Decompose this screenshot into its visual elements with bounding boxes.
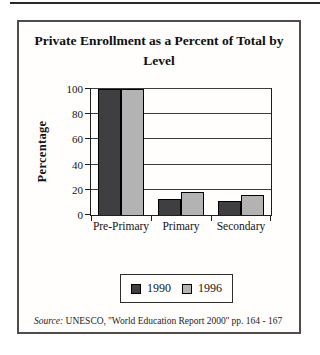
legend-swatch-1996 bbox=[182, 284, 192, 294]
legend-item-1996: 1996 bbox=[182, 281, 222, 296]
x-tick-mark bbox=[151, 215, 152, 221]
bar-1996 bbox=[181, 192, 204, 215]
x-tick-mark bbox=[211, 215, 212, 221]
x-axis-label: Secondary bbox=[217, 220, 266, 232]
bar-1990 bbox=[98, 89, 121, 215]
source-text: UNESCO, ''World Education Report 2000'' … bbox=[63, 316, 282, 326]
y-tick-label: 80 bbox=[49, 109, 83, 120]
source-label: Source: bbox=[34, 316, 63, 326]
y-axis-title-text: Percentage bbox=[36, 120, 51, 182]
y-tick-label: 0 bbox=[49, 210, 83, 221]
bar-1996 bbox=[241, 195, 264, 215]
y-axis-title: Percentage bbox=[32, 86, 54, 216]
legend-label-1996: 1996 bbox=[198, 281, 222, 296]
x-tick-mark bbox=[270, 215, 271, 221]
y-tick-label: 20 bbox=[49, 184, 83, 195]
legend-label-1990: 1990 bbox=[147, 281, 171, 296]
bar-1990 bbox=[158, 199, 181, 215]
y-tick-label: 100 bbox=[49, 84, 83, 95]
legend: 1990 1996 bbox=[120, 274, 233, 303]
plot-area: 020406080100Pre-PrimaryPrimarySecondary bbox=[90, 88, 272, 216]
x-tick-mark bbox=[91, 215, 92, 221]
legend-swatch-1990 bbox=[131, 284, 141, 294]
bar-1996 bbox=[121, 89, 144, 215]
source-note: Source: UNESCO, ''World Education Report… bbox=[34, 316, 293, 326]
bar-group bbox=[151, 89, 211, 215]
bar-1990 bbox=[218, 201, 241, 215]
legend-item-1990: 1990 bbox=[131, 281, 171, 296]
y-tick-label: 40 bbox=[49, 159, 83, 170]
chart-frame: Private Enrollment as a Percent of Total… bbox=[17, 20, 301, 334]
top-rule bbox=[10, 2, 320, 4]
y-tick-label: 60 bbox=[49, 134, 83, 145]
bar-group bbox=[211, 89, 271, 215]
chart-title: Private Enrollment as a Percent of Total… bbox=[32, 31, 286, 70]
x-axis-label: Primary bbox=[162, 220, 199, 232]
bar-group bbox=[91, 89, 151, 215]
x-axis-label: Pre-Primary bbox=[93, 220, 149, 232]
